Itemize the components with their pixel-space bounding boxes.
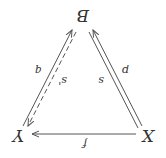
node-y: Y [13,127,24,144]
arrow-s-prime [28,32,76,126]
node-x: X [142,127,154,144]
label-p: p [122,65,129,76]
label-f: f [83,138,87,149]
arrow-p-parallel [89,32,138,128]
label-s: s [98,75,104,86]
label-s-prime: s' [58,75,67,86]
label-q: q [35,65,42,76]
node-b: B [77,7,90,24]
commutative-triangle-diagram: X Y B f p s q s' [0,0,166,158]
